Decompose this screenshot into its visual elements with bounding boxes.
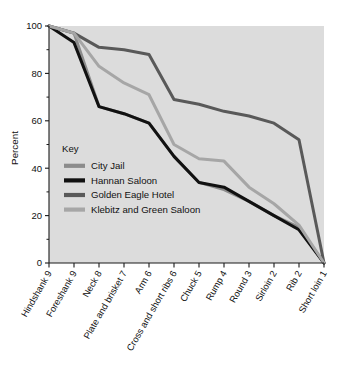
legend-label-klebitz-and-green-saloon: Klebitz and Green Saloon — [91, 204, 200, 215]
y-tick-label: 20 — [31, 210, 42, 221]
legend-label-golden-eagle-hotel: Golden Eagle Hotel — [91, 189, 174, 200]
y-axis-title: Percent — [9, 131, 20, 165]
y-tick-label: 100 — [26, 20, 42, 31]
legend-title: Key — [62, 143, 79, 154]
legend-label-city-jail: City Jail — [91, 160, 125, 171]
line-chart: 020406080100 Percent Hindshank 9Foreshan… — [0, 0, 339, 377]
plot-area-background — [49, 26, 324, 263]
y-tick-label: 0 — [37, 257, 42, 268]
y-tick-label: 40 — [31, 163, 42, 174]
y-tick-label: 60 — [31, 115, 42, 126]
legend-label-hannan-saloon: Hannan Saloon — [91, 175, 157, 186]
y-tick-label: 80 — [31, 68, 42, 79]
